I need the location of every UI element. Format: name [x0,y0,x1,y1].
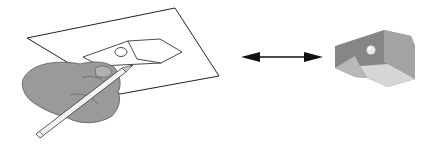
solid-model [335,30,415,87]
bidirectional-arrow-icon [241,52,323,62]
diagram-canvas [0,0,439,149]
illustration [0,0,439,149]
